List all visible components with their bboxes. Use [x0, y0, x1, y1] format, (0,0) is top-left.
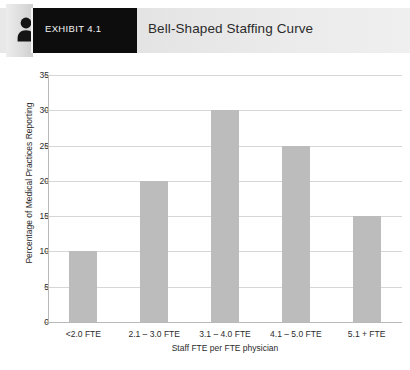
y-tick-label: 25	[19, 141, 49, 151]
bar	[211, 110, 239, 322]
x-tick-label: 5.1 + FTE	[348, 329, 386, 339]
bar	[69, 251, 97, 322]
x-axis-title: Staff FTE per FTE physician	[48, 343, 402, 353]
x-tick-label: 3.1 – 4.0 FTE	[199, 329, 251, 339]
y-tick-label: 35	[19, 70, 49, 80]
x-tick-label: <2.0 FTE	[66, 329, 101, 339]
y-tick-label: 20	[19, 176, 49, 186]
page-title: Bell-Shaped Staffing Curve	[148, 21, 313, 36]
exhibit-header: EXHIBIT 4.1 Bell-Shaped Staffing Curve	[0, 8, 410, 53]
y-tick-label: 0	[19, 317, 49, 327]
plot-area: 05101520253035 <2.0 FTE2.1 – 3.0 FTE3.1 …	[48, 75, 402, 322]
bar	[140, 181, 168, 322]
bars-layer	[48, 75, 402, 322]
y-tick-label: 5	[19, 282, 49, 292]
x-tick-label: 4.1 – 5.0 FTE	[270, 329, 322, 339]
y-tick-label: 10	[19, 246, 49, 256]
y-tick-label: 15	[19, 211, 49, 221]
bar	[353, 216, 381, 322]
x-tick-label: 2.1 – 3.0 FTE	[128, 329, 180, 339]
bar	[282, 146, 310, 322]
exhibit-tag: EXHIBIT 4.1	[33, 8, 137, 53]
x-axis-line	[48, 322, 402, 323]
exhibit-icon-plate	[6, 4, 33, 57]
exhibit-tag-label: EXHIBIT 4.1	[45, 23, 101, 34]
y-tick-label: 30	[19, 105, 49, 115]
bar-chart: Percentage of Medical Practices Reportin…	[0, 60, 410, 370]
